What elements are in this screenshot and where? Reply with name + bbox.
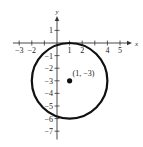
x-tick-label: 4 bbox=[105, 46, 109, 55]
x-tick-label: 5 bbox=[118, 46, 122, 55]
y-axis-label: y bbox=[55, 8, 60, 16]
y-tick-label: −2 bbox=[44, 64, 53, 73]
x-tick-label: −3 bbox=[15, 46, 24, 55]
center-point bbox=[67, 78, 72, 83]
x-tick-label: 2 bbox=[80, 46, 84, 55]
x-tick-label: −2 bbox=[28, 46, 37, 55]
y-tick-label: −6 bbox=[44, 115, 53, 124]
y-tick-label: 1 bbox=[49, 26, 53, 35]
y-arrow-icon bbox=[55, 16, 59, 21]
x-tick-label: 1 bbox=[68, 46, 72, 55]
x-arrow-icon bbox=[127, 41, 132, 45]
y-tick-label: −4 bbox=[44, 89, 53, 98]
x-axis-label: x bbox=[134, 40, 139, 48]
circle-graph: −3−212451−1−2−3−4−5−6−7 (1, −3) x y bbox=[0, 0, 143, 147]
center-point-label: (1, −3) bbox=[73, 69, 95, 78]
y-tick-label: −1 bbox=[44, 52, 53, 61]
y-tick-label: −3 bbox=[44, 77, 53, 86]
y-tick-label: −7 bbox=[44, 127, 53, 136]
